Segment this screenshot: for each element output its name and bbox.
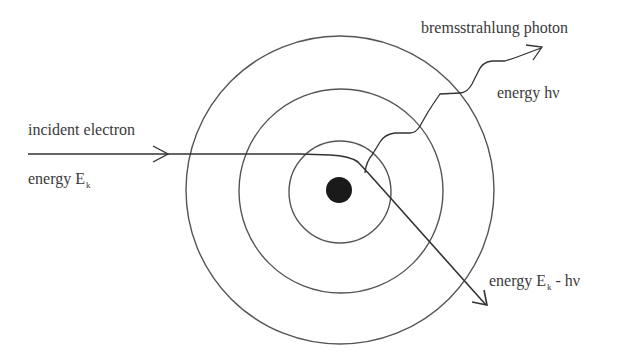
incident-energy-text: energy E [28, 170, 85, 187]
photon-label: bremsstrahlung photon [421, 19, 568, 37]
incident-energy-label: energy Ek [28, 170, 91, 190]
scattered-electron-path [300, 154, 487, 305]
photon-text: bremsstrahlung photon [421, 19, 568, 36]
photon-energy-label: energy hν [497, 84, 559, 102]
incident-electron-label: incident electron [28, 121, 135, 139]
diagram-graphics [0, 0, 636, 361]
scattered-energy-label: energy Ek - hν [489, 272, 580, 292]
scattered-energy-text: energy E [489, 272, 546, 289]
nucleus [326, 177, 352, 203]
scattered-energy-subscript: k [547, 282, 552, 292]
incident-electron-path [28, 146, 300, 162]
bremsstrahlung-diagram: incident electron energy Ek bremsstrahlu… [0, 0, 636, 361]
incident-electron-text: incident electron [28, 121, 135, 138]
photon-energy-text: energy hν [497, 84, 559, 101]
bremsstrahlung-photon-path [365, 45, 542, 173]
scattered-energy-suffix: - hν [552, 272, 581, 289]
incident-energy-subscript: k [86, 180, 91, 190]
